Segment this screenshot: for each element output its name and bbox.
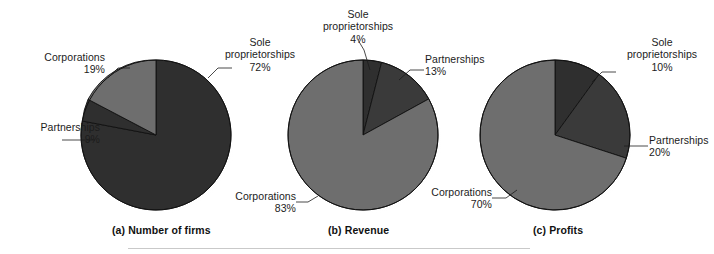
pie-a-label-corporations-name: Corporations xyxy=(0,51,105,63)
pie-b-label-partnerships-value: 13% xyxy=(425,65,493,77)
caption-b: (b) Revenue xyxy=(328,224,389,236)
pie-c-label-sole-line1: Sole xyxy=(610,36,714,48)
caption-a: (a) Number of firms xyxy=(112,224,211,236)
pie-c-label-sole-line2: proprietorships xyxy=(610,48,714,60)
pie-a-label-sole-line2: proprietorships xyxy=(205,48,315,60)
pie-b-label-partnerships-name: Partnerships xyxy=(425,53,525,65)
pie-c-label-corporations: Corporations 70% xyxy=(392,186,492,211)
pie-a xyxy=(81,60,231,210)
pie-a-label-partnerships-name: Partnerships xyxy=(0,121,100,133)
pie-c-label-corporations-value: 70% xyxy=(392,198,492,210)
pie-c-label-partnerships-value: 20% xyxy=(649,146,714,158)
pie-b-label-corporations-name: Corporations xyxy=(196,190,296,202)
pie-b-label-sole-value: 4% xyxy=(302,33,414,45)
pie-chart-figure: Corporations 19% Partnerships 9% Sole pr… xyxy=(0,0,714,254)
pie-a-label-corporations: Corporations 19% xyxy=(0,51,105,76)
pie-c-label-sole-proprietorships: Sole proprietorships 10% xyxy=(610,36,714,73)
pie-b-label-sole-proprietorships: Sole proprietorships 4% xyxy=(302,8,414,45)
pie-a-label-corporations-value: 19% xyxy=(0,63,105,75)
pie-c-label-partnerships-name: Partnerships xyxy=(649,134,714,146)
pie-a-label-sole-proprietorships: Sole proprietorships 72% xyxy=(205,36,315,73)
pie-c xyxy=(480,60,630,210)
bottom-divider xyxy=(128,248,530,249)
pie-a-label-partnerships-value: 9% xyxy=(0,133,100,145)
pie-b-label-partnerships: Partnerships 13% xyxy=(425,53,525,78)
pie-c-label-partnerships: Partnerships 20% xyxy=(649,134,714,159)
pie-b-label-sole-line2: proprietorships xyxy=(302,20,414,32)
pie-a-label-sole-line1: Sole xyxy=(205,36,315,48)
pie-c-label-sole-value: 10% xyxy=(610,61,714,73)
pie-c-label-corporations-name: Corporations xyxy=(392,186,492,198)
caption-c: (c) Profits xyxy=(533,224,583,236)
pie-a-label-partnerships: Partnerships 9% xyxy=(0,121,100,146)
pie-a-label-sole-value: 72% xyxy=(205,61,315,73)
pie-b-label-corporations: Corporations 83% xyxy=(196,190,296,215)
pie-b-label-corporations-value: 83% xyxy=(196,202,296,214)
pie-b-leader-corporations xyxy=(296,196,318,202)
pie-b-label-sole-line1: Sole xyxy=(302,8,414,20)
